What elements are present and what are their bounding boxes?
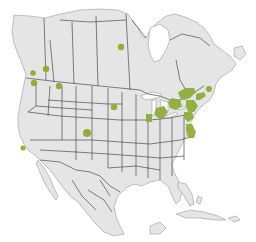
marker-manitoba-north[interactable] — [118, 44, 124, 50]
marker-montana-idaho[interactable] — [56, 83, 62, 89]
marker-california-bay[interactable] — [21, 146, 26, 151]
marker-new-brunswick[interactable] — [206, 86, 212, 92]
marker-vancouver[interactable] — [30, 70, 36, 76]
marker-alberta[interactable] — [43, 66, 49, 72]
marker-seattle[interactable] — [31, 80, 37, 86]
region-illinois — [146, 114, 152, 122]
north-america-map — [0, 0, 256, 242]
marker-south-dakota[interactable] — [111, 104, 117, 110]
marker-colorado[interactable] — [83, 129, 91, 137]
map-canvas — [0, 0, 256, 242]
